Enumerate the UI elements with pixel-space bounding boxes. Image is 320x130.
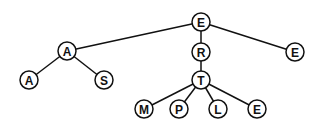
tree-node-e: E [286, 43, 304, 61]
tree-edge [201, 22, 295, 52]
tree-node-a: A [58, 42, 76, 60]
node-label: S [100, 74, 108, 88]
tree-node-e: E [248, 100, 266, 118]
tree-node-p: P [170, 100, 188, 118]
node-label: M [139, 103, 149, 117]
node-label: P [175, 103, 183, 117]
tree-nodes: EAREASTMPLE [20, 13, 304, 118]
tree-edge [67, 22, 201, 51]
tree-node-e: E [192, 13, 210, 31]
node-label: R [197, 46, 206, 60]
node-label: A [63, 45, 72, 59]
node-label: E [197, 16, 205, 30]
tree-edges [29, 22, 295, 109]
tree-node-s: S [95, 71, 113, 89]
node-label: E [253, 103, 261, 117]
tree-node-l: L [209, 100, 227, 118]
tree-node-a: A [20, 71, 38, 89]
tree-node-t: T [192, 71, 210, 89]
node-label: A [25, 74, 34, 88]
tree-node-r: R [192, 43, 210, 61]
node-label: T [197, 74, 205, 88]
node-label: L [214, 103, 221, 117]
node-label: E [291, 46, 299, 60]
tree-diagram: EAREASTMPLE [0, 0, 320, 130]
tree-node-m: M [135, 100, 153, 118]
